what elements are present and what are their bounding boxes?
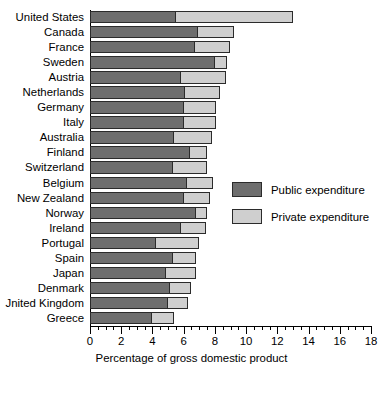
x-tick-minor [293,326,294,330]
bar-row [90,130,371,145]
bar-segment-private [184,86,219,98]
category-label: Australia [0,130,88,145]
chart-legend: Public expenditure Private expenditure [232,182,369,236]
legend-item-private: Private expenditure [232,209,369,224]
bar-row [90,40,371,55]
x-tick-minor [332,326,333,330]
x-axis-title: Percentage of gross domestic product [0,352,383,364]
x-tick-major [215,326,216,334]
x-tick-label: 16 [333,335,346,347]
x-tick-minor [98,326,99,330]
bar-row [90,160,371,175]
x-tick-major [152,326,153,334]
category-label: Greece [0,311,88,326]
x-tick-minor [113,326,114,330]
bar-segment-public [90,192,184,204]
bar-segment-private [180,71,226,83]
x-tick-minor [176,326,177,330]
category-label: Japan [0,266,88,281]
bar-row [90,251,371,266]
plot-area [90,10,371,326]
bar-row [90,115,371,130]
bar-segment-public [90,237,156,249]
bar-segment-private [155,237,200,249]
category-label: Canada [0,25,88,40]
bar-segment-private [173,131,211,143]
bar-segment-private [189,146,207,158]
category-label: Jnited Kingdom [0,296,88,311]
category-label: Switzerland [0,160,88,175]
bar-segment-private [186,177,214,189]
bar-row [90,311,371,326]
bar-segment-private [183,192,211,204]
x-tick-major [277,326,278,334]
x-tick-minor [355,326,356,330]
x-tick-major [184,326,185,334]
x-tick-label: 2 [118,335,124,347]
bar-row [90,55,371,70]
bar-segment-private [172,161,207,173]
category-label: Austria [0,70,88,85]
bar-row [90,100,371,115]
bar-row [90,281,371,296]
category-label: Netherlands [0,85,88,100]
bar-segment-public [90,282,170,294]
x-tick-minor [285,326,286,330]
bar-row [90,85,371,100]
bar-segment-public [90,41,195,53]
category-label: Portugal [0,236,88,251]
x-tick-label: 18 [365,335,378,347]
bar-segment-public [90,267,166,279]
x-tick-major [246,326,247,334]
bar-segment-public [90,146,190,158]
x-tick-minor [348,326,349,330]
bar-segment-private [175,11,293,23]
x-tick-label: 4 [149,335,155,347]
category-label: United States [0,10,88,25]
bar-segment-private [167,297,188,309]
bar-segment-private [195,207,207,219]
category-label: Italy [0,115,88,130]
bar-segment-public [90,312,152,324]
bar-row [90,70,371,85]
x-tick-minor [316,326,317,330]
category-label: New Zealand [0,191,88,206]
category-label: Ireland [0,221,88,236]
bar-segment-public [90,56,215,68]
bar-segment-public [90,26,198,38]
bar-segment-private [183,101,217,113]
bar-segment-public [90,116,184,128]
category-label: Spain [0,251,88,266]
bar-row [90,296,371,311]
bar-row [90,25,371,40]
x-tick-label: 10 [240,335,253,347]
legend-label-private: Private expenditure [271,211,369,223]
category-axis-labels: United StatesCanadaFranceSwedenAustriaNe… [0,10,88,326]
x-tick-minor [363,326,364,330]
legend-swatch-public-icon [232,182,262,197]
bar-segment-public [90,71,181,83]
bar-segment-private [165,267,196,279]
bar-segment-public [90,222,181,234]
x-tick-minor [301,326,302,330]
x-tick-minor [199,326,200,330]
x-tick-minor [238,326,239,330]
bar-segment-private [172,252,196,264]
category-label: Belgium [0,176,88,191]
bar-segment-public [90,131,174,143]
bar-segment-public [90,207,196,219]
x-tick-major [90,326,91,334]
x-tick-label: 12 [271,335,284,347]
x-tick-major [340,326,341,334]
bar-segment-private [180,222,206,234]
legend-item-public: Public expenditure [232,182,369,197]
bar-segment-public [90,11,176,23]
bar-segment-public [90,252,173,264]
bar-segment-private [151,312,174,324]
bar-row [90,10,371,25]
category-label: Norway [0,206,88,221]
x-tick-major [309,326,310,334]
x-tick-minor [324,326,325,330]
category-label: Denmark [0,281,88,296]
x-tick-minor [231,326,232,330]
